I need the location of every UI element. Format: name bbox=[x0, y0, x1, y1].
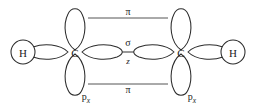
p-orbital-subscript-right: x bbox=[192, 96, 197, 105]
sp-orbital-lobe-right-carbon-inner bbox=[134, 45, 174, 60]
atom-label-carbon-left: C bbox=[71, 47, 78, 59]
pi-bond-label-bottom: π bbox=[125, 84, 130, 95]
p-orbital-label-left: px bbox=[82, 91, 91, 105]
p-orbital-subscript-left: x bbox=[86, 96, 91, 105]
p-orbital-lobe-left-carbon-up bbox=[65, 9, 85, 50]
orbital-diagram-canvas: C H C H π π σ z px px bbox=[0, 0, 255, 106]
p-orbital-label-right: px bbox=[188, 91, 197, 105]
sp-orbital-lobe-left-carbon-inner bbox=[82, 45, 122, 60]
z-axis-label: z bbox=[125, 56, 130, 66]
atom-label-hydrogen-right: H bbox=[229, 47, 237, 59]
atom-label-hydrogen-left: H bbox=[19, 47, 27, 59]
p-orbital-lobe-right-carbon-up bbox=[171, 9, 191, 50]
sigma-bond-label: σ bbox=[125, 37, 131, 48]
atom-label-carbon-right: C bbox=[177, 47, 184, 59]
p-orbital-lobe-right-carbon-down bbox=[171, 54, 191, 95]
pi-bond-label-top: π bbox=[125, 6, 130, 17]
p-orbital-lobe-left-carbon-down bbox=[65, 54, 85, 95]
orbital-diagram: C H C H π π σ z px px bbox=[0, 0, 255, 106]
